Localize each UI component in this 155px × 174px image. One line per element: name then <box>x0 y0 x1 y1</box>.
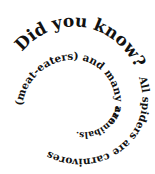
segment-2-text: (meat-eaters) and many are <box>12 50 125 129</box>
segment-1-text: All spiders are carnivores <box>44 74 152 169</box>
segment-3-text: cannibals. <box>75 106 124 140</box>
spiral-graphic: Did you know? All spiders are carnivores… <box>0 0 155 174</box>
